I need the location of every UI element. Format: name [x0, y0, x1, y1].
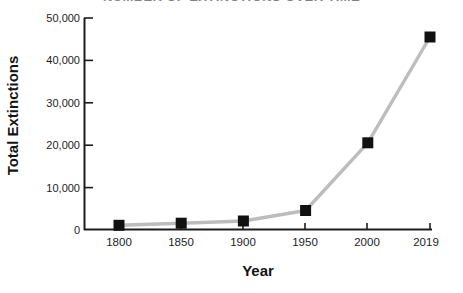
data-series-markers: [114, 32, 436, 231]
x-axis-title: Year: [84, 262, 432, 279]
plot-area: [0, 0, 463, 293]
data-point-marker: [362, 137, 373, 148]
data-series-line: [119, 37, 430, 225]
data-point-marker: [300, 205, 311, 216]
extinctions-line-chart: Total Extinctions 0 10,000 20,000 30,000…: [0, 0, 463, 293]
data-point-marker: [176, 218, 187, 229]
data-point-marker: [238, 216, 249, 227]
data-point-marker: [114, 220, 125, 231]
data-point-marker: [425, 32, 436, 43]
